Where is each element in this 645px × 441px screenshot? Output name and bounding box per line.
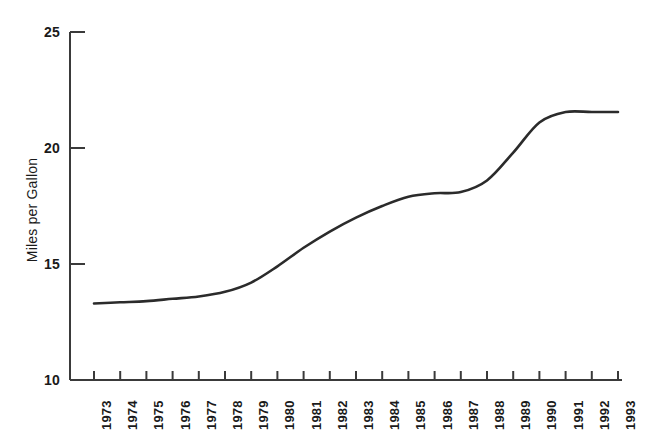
x-tick-label-1986: 1986 — [440, 400, 455, 430]
x-tick-label-1977: 1977 — [204, 400, 219, 430]
x-tick-marks — [94, 371, 618, 380]
x-tick-label-1973: 1973 — [99, 400, 114, 430]
x-tick-label-1987: 1987 — [466, 400, 481, 430]
y-tick-label-10: 10 — [26, 372, 60, 388]
x-tick-label-1976: 1976 — [178, 400, 193, 430]
x-tick-label-1991: 1991 — [571, 400, 586, 430]
x-tick-label-1982: 1982 — [335, 400, 350, 430]
chart-plot-area — [0, 0, 645, 441]
x-tick-label-1978: 1978 — [230, 400, 245, 430]
x-tick-label-1988: 1988 — [492, 400, 507, 430]
x-tick-label-1983: 1983 — [361, 400, 376, 430]
x-tick-label-1975: 1975 — [151, 400, 166, 430]
x-tick-label-1979: 1979 — [256, 400, 271, 430]
chart-container: 25 20 15 10 Miles per Gallon 19731974197… — [0, 0, 645, 441]
y-tick-marks — [70, 32, 85, 264]
x-tick-label-1981: 1981 — [309, 400, 324, 430]
x-tick-label-1980: 1980 — [282, 400, 297, 430]
x-tick-label-1984: 1984 — [387, 400, 402, 430]
data-series-line — [94, 111, 618, 303]
x-tick-label-1992: 1992 — [597, 400, 612, 430]
x-tick-label-1990: 1990 — [544, 400, 559, 430]
x-tick-label-1993: 1993 — [623, 400, 638, 430]
y-tick-label-20: 20 — [26, 140, 60, 156]
x-tick-label-1989: 1989 — [518, 400, 533, 430]
x-tick-label-1985: 1985 — [413, 400, 428, 430]
y-axis-title: Miles per Gallon — [24, 158, 40, 262]
y-tick-label-25: 25 — [26, 24, 60, 40]
x-tick-label-1974: 1974 — [125, 400, 140, 430]
